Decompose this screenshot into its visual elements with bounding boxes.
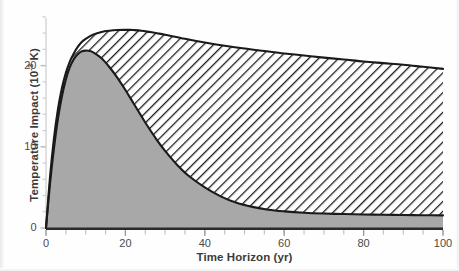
plot-canvas [0, 0, 459, 271]
y-tick-label-10: 10 [11, 140, 37, 152]
y-axis-title-text: Temperature Impact (10 [28, 71, 40, 202]
chart-figure: Temperature Impact (10-3 K) Time Horizon… [0, 0, 459, 271]
y-tick-label-20: 20 [11, 59, 37, 71]
x-tick-label-40: 40 [187, 237, 223, 249]
x-tick-label-100: 100 [425, 237, 459, 249]
x-tick-label-80: 80 [346, 237, 382, 249]
x-axis-title: Time Horizon (yr) [46, 251, 443, 263]
x-tick-label-60: 60 [266, 237, 302, 249]
x-tick-label-0: 0 [28, 237, 64, 249]
x-axis-minor-ticks [46, 230, 443, 235]
y-axis-major-ticks [41, 66, 47, 228]
y-tick-label-0: 0 [11, 221, 37, 233]
x-tick-label-20: 20 [107, 237, 143, 249]
